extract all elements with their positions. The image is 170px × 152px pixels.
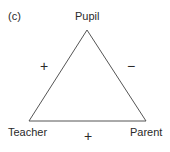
panel-label: (c) <box>8 10 21 22</box>
edge-sign-bottom: + <box>84 129 92 143</box>
edge-sign-left: + <box>40 59 48 73</box>
node-parent: Parent <box>130 126 162 138</box>
node-pupil: Pupil <box>75 10 99 22</box>
edge-pupil-parent <box>87 30 146 121</box>
node-teacher: Teacher <box>8 126 47 138</box>
edge-sign-right: − <box>127 59 135 73</box>
edge-pupil-teacher <box>29 30 87 121</box>
